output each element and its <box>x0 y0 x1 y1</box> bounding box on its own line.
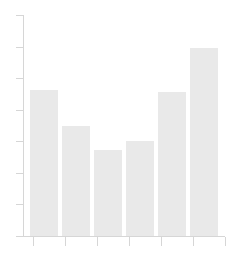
plot-area <box>23 15 225 236</box>
bar-1 <box>30 90 58 236</box>
bar-3 <box>94 150 122 236</box>
bar-chart-figure <box>0 0 232 263</box>
y-tick-8 <box>16 236 24 237</box>
bar-6 <box>190 48 218 236</box>
x-tick-6 <box>193 237 194 246</box>
x-tick-1 <box>33 237 34 246</box>
x-tick-5 <box>161 237 162 246</box>
x-axis-line <box>23 236 225 237</box>
bar-5 <box>158 92 186 236</box>
x-tick-7 <box>225 237 226 246</box>
x-tick-4 <box>129 237 130 246</box>
x-tick-2 <box>65 237 66 246</box>
bar-4 <box>126 141 154 236</box>
bar-2 <box>62 126 90 237</box>
x-tick-3 <box>97 237 98 246</box>
